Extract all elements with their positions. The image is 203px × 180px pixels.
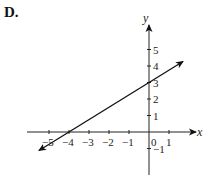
coordinate-plot: xy−5−4−3−2−101−112345 [0, 0, 203, 180]
x-tick-label: 1 [166, 136, 172, 148]
x-tick-label: −3 [82, 136, 94, 148]
y-tick-label: 1 [153, 110, 159, 122]
x-tick-label: −2 [102, 136, 114, 148]
x-tick-label: −1 [122, 136, 134, 148]
y-tick-label: 2 [153, 93, 159, 105]
y-tick-label: 5 [153, 44, 159, 56]
y-tick-label: 4 [153, 60, 159, 72]
y-axis-label: y [142, 11, 149, 25]
y-tick-label: −1 [153, 143, 165, 155]
x-axis-label: x [196, 125, 203, 139]
x-tick-label: −4 [62, 136, 74, 148]
